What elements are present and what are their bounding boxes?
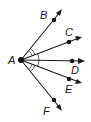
label-e: E xyxy=(65,83,73,95)
label-a: A xyxy=(7,54,15,66)
arrowhead-d xyxy=(78,58,85,64)
point-f xyxy=(52,98,56,102)
arrowhead-e xyxy=(75,79,82,84)
angle-arc-eaf-inner xyxy=(29,64,33,69)
arrowhead-c xyxy=(75,36,82,41)
point-c xyxy=(67,40,71,44)
point-d xyxy=(70,59,74,63)
point-e xyxy=(67,77,71,81)
label-c: C xyxy=(65,26,73,38)
label-d: D xyxy=(71,64,79,76)
label-b: B xyxy=(40,9,47,21)
point-b xyxy=(52,18,56,22)
angle-diagram: A B C D E F xyxy=(0,0,91,122)
point-a xyxy=(18,57,24,63)
angle-arc-bac-inner xyxy=(29,51,33,56)
labels: A B C D E F xyxy=(7,9,79,117)
label-f: F xyxy=(43,105,51,117)
